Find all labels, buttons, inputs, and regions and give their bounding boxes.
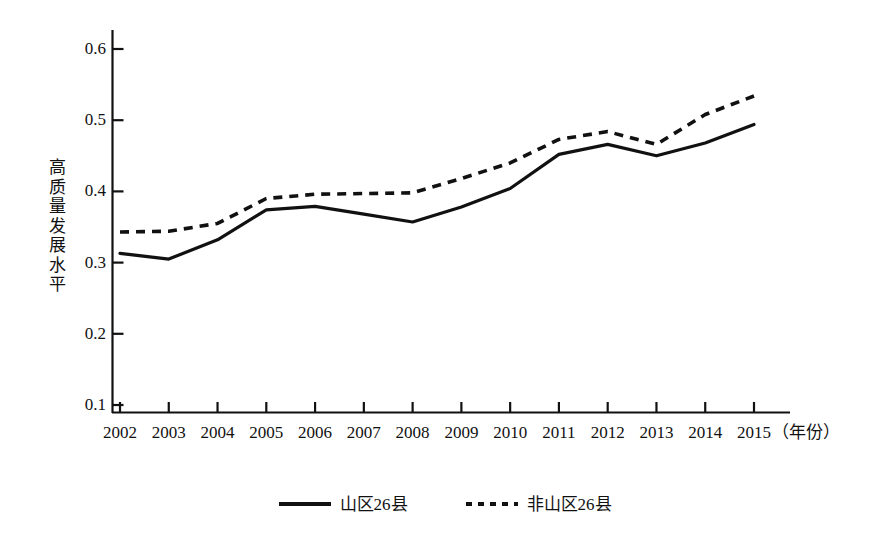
y-tick-marks [113, 49, 124, 405]
legend-line-solid-icon [279, 498, 331, 510]
legend-label-dashed: 非山区26县 [527, 496, 612, 513]
x-tick-label: 2007 [338, 424, 390, 441]
x-tick-label: 2006 [289, 424, 341, 441]
x-tick-label: 2012 [582, 424, 634, 441]
x-tick-label: 2009 [435, 424, 487, 441]
y-tick-label: 0.2 [62, 325, 106, 342]
x-tick-label: 2013 [630, 424, 682, 441]
y-tick-label: 0.6 [62, 40, 106, 57]
series-line-1 [120, 124, 754, 259]
legend-label-solid: 山区26县 [340, 496, 408, 513]
plot-area: 0.10.20.30.40.50.6 200220032004200520062… [0, 0, 890, 470]
axes-group [112, 30, 790, 413]
x-tick-label: 2005 [240, 424, 292, 441]
chart-legend: 山区26县 非山区26县 [0, 484, 890, 524]
y-tick-label: 0.4 [62, 182, 106, 199]
x-tick-label: 2004 [192, 424, 244, 441]
legend-line-dashed-icon [466, 498, 518, 510]
x-tick-label: 2003 [143, 424, 195, 441]
x-tick-label: 2010 [484, 424, 536, 441]
x-tick-marks [120, 402, 754, 413]
y-tick-label: 0.1 [62, 396, 106, 413]
plot-svg [0, 0, 890, 470]
line-chart-figure: 高 质 量 发 展 水 平 0.10.20.30.40.50.6 2002200… [0, 0, 890, 539]
data-series-group [120, 96, 754, 259]
x-tick-label: 2008 [387, 424, 439, 441]
y-tick-label: 0.3 [62, 254, 106, 271]
legend-item-dashed: 非山区26县 [466, 496, 612, 513]
legend-item-solid: 山区26县 [279, 496, 408, 513]
x-tick-label: 2011 [533, 424, 585, 441]
series-line-2 [120, 96, 754, 232]
x-tick-label: 2002 [94, 424, 146, 441]
x-tick-label: 2014 [679, 424, 731, 441]
x-axis-unit-label: （年份） [772, 424, 840, 441]
y-tick-label: 0.5 [62, 111, 106, 128]
